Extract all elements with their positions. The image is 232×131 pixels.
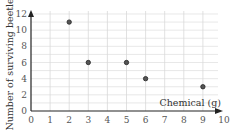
scatter-chart: 012345678910 024681012 Chemical (g) Numb…	[0, 0, 232, 131]
data-point	[124, 60, 128, 64]
x-tick-label: 2	[66, 115, 72, 125]
x-tick-label: 3	[85, 115, 91, 125]
data-point	[67, 20, 71, 24]
y-tick-label: 4	[21, 74, 27, 84]
y-tick-label: 6	[21, 58, 27, 68]
y-axis-label: Number of surviving beetles	[4, 0, 15, 131]
data-point	[86, 60, 90, 64]
x-tick-label: 1	[47, 115, 53, 125]
x-tick-label: 0	[28, 115, 34, 125]
y-tick-label: 8	[21, 41, 27, 51]
y-tick-label: 12	[16, 9, 27, 19]
x-tick-label: 6	[143, 115, 149, 125]
x-tick-label: 8	[181, 115, 187, 125]
y-tick-labels: 024681012	[16, 9, 28, 116]
data-point	[201, 85, 205, 89]
y-axis-arrow-icon	[28, 10, 34, 17]
y-tick-label: 10	[16, 25, 28, 35]
y-tick-label: 2	[21, 90, 27, 100]
x-axis-arrow-icon	[215, 108, 223, 114]
x-tick-label: 5	[124, 115, 130, 125]
x-tick-labels: 012345678910	[28, 115, 230, 125]
x-tick-label: 9	[200, 115, 206, 125]
x-tick-label: 7	[162, 115, 168, 125]
y-tick-label: 0	[21, 106, 27, 116]
x-tick-label: 10	[218, 115, 230, 125]
x-axis-label: Chemical (g)	[159, 97, 221, 108]
data-point	[143, 76, 147, 80]
x-tick-label: 4	[105, 115, 111, 125]
